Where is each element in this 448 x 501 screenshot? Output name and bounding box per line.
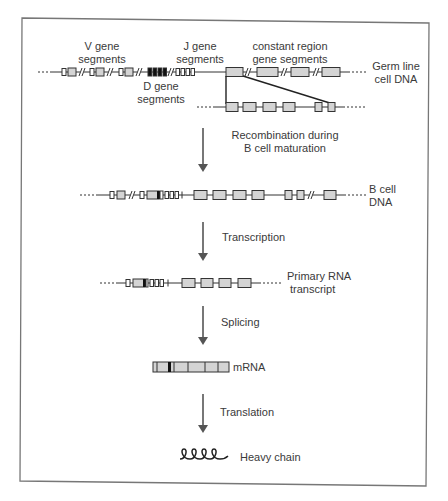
primary-rna-line2: transcript (287, 283, 351, 296)
label-j-gene-segments: J gene segments (170, 40, 230, 66)
germ-line-line1: Germ line (368, 60, 424, 73)
heavy-chain-text: Heavy chain (240, 451, 301, 464)
label-step-splicing: Splicing (221, 316, 260, 329)
label-j-line2: segments (170, 53, 230, 66)
label-step-translation: Translation (220, 406, 274, 419)
label-c-line1: constant region (245, 40, 335, 53)
step-transcription-text: Transcription (222, 231, 285, 244)
label-d-line2: segments (131, 93, 191, 106)
constant-region-expanded (197, 103, 366, 112)
label-d-gene-segments: D gene segments (131, 80, 191, 106)
label-germ-line-dna: Germ line cell DNA (368, 60, 424, 86)
germ-line-line2: cell DNA (368, 73, 424, 86)
step-arrow-transcription (198, 222, 208, 261)
step-splicing-text: Splicing (221, 316, 260, 329)
bcell-line2: DNA (369, 196, 396, 209)
label-v-gene-segments: V gene segments (72, 40, 132, 66)
expansion-lines (226, 76, 333, 104)
step-arrow-splicing (198, 306, 208, 345)
step-recombination-line1: Recombination during (220, 129, 350, 142)
label-v-line1: V gene (72, 40, 132, 53)
label-v-line2: segments (72, 53, 132, 66)
label-mrna: mRNA (233, 361, 265, 374)
label-d-line1: D gene (131, 80, 191, 93)
label-primary-rna: Primary RNA transcript (287, 270, 351, 296)
mrna-strand (153, 362, 229, 372)
step-arrow-translation (198, 394, 208, 433)
heavy-chain-coil-icon (180, 449, 228, 459)
label-c-line2: gene segments (245, 53, 335, 66)
step-recombination-line2: B cell maturation (220, 142, 350, 155)
bcell-dna (80, 191, 366, 200)
bcell-line1: B cell (369, 183, 396, 196)
germline-dna (38, 68, 366, 77)
step-arrow-recombination (198, 128, 208, 172)
label-step-recombination: Recombination during B cell maturation (220, 129, 350, 155)
primary-rna-transcript (100, 279, 281, 288)
label-heavy-chain: Heavy chain (240, 451, 301, 464)
label-constant-region: constant region gene segments (245, 40, 335, 66)
primary-rna-line1: Primary RNA (287, 270, 351, 283)
step-translation-text: Translation (220, 406, 274, 419)
label-bcell-dna: B cell DNA (369, 183, 396, 209)
label-j-line1: J gene (170, 40, 230, 53)
label-step-transcription: Transcription (222, 231, 285, 244)
mrna-text: mRNA (233, 361, 265, 374)
